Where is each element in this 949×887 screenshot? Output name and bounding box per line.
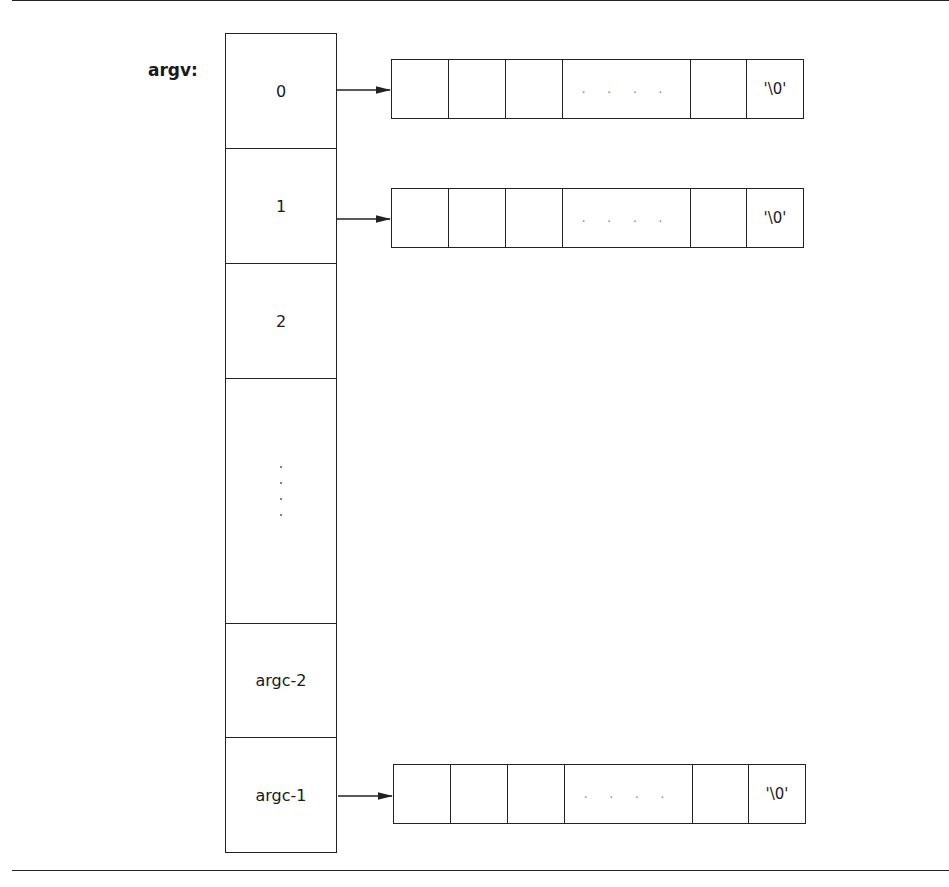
pointer-arrows: [0, 0, 949, 887]
